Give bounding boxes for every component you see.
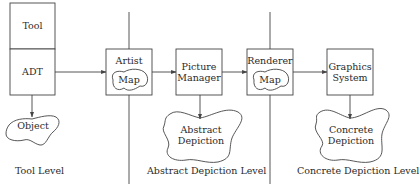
tool-label: Tool — [10, 20, 55, 31]
concrete-level-label: Concrete Depiction Level — [297, 165, 419, 176]
object-label: Object — [10, 120, 56, 131]
renderer-label: Renderer — [247, 55, 293, 66]
concrete-depiction-label-1: Concrete — [326, 124, 376, 135]
adt-label: ADT — [10, 66, 55, 77]
abstract-depiction-label-2: Depiction — [176, 135, 226, 146]
picture-manager-label-1: Picture — [176, 61, 222, 72]
picture-manager-label-2: Manager — [176, 72, 222, 83]
graphics-system-label-1: Graphics — [327, 61, 373, 72]
abstract-depiction-label-1: Abstract — [176, 124, 226, 135]
concrete-depiction-label-2: Depiction — [326, 135, 376, 146]
artist-map-label: Map — [106, 74, 152, 85]
artist-label: Artist — [106, 55, 152, 66]
renderer-map-label: Map — [247, 74, 293, 85]
graphics-system-label-2: System — [327, 72, 373, 83]
abstract-level-label: Abstract Depiction Level — [147, 165, 266, 176]
tool-level-label: Tool Level — [15, 165, 64, 176]
